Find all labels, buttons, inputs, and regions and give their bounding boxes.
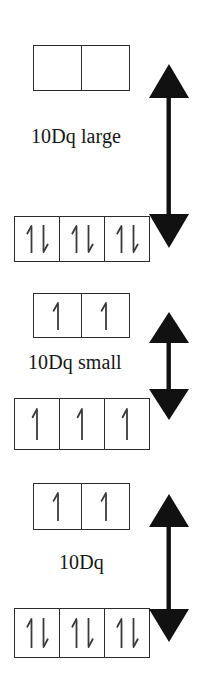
double-headed-arrow-icon xyxy=(147,62,191,250)
electron-group xyxy=(34,46,81,90)
orbital-cell xyxy=(14,608,59,658)
orbital-cell xyxy=(81,483,130,530)
electron-spin-up-icon xyxy=(116,617,127,649)
orbital-cell xyxy=(14,398,59,450)
electron-group xyxy=(105,609,149,657)
electron-spin-up-icon xyxy=(100,301,112,331)
electron-spin-down-icon xyxy=(38,224,49,254)
electron-spin-down-icon xyxy=(83,617,94,649)
orbital-cell xyxy=(104,608,150,658)
double-headed-arrow-icon xyxy=(147,310,191,422)
double-headed-arrow-icon xyxy=(147,492,191,644)
electron-spin-up-icon xyxy=(116,224,127,254)
orbital-cell xyxy=(81,45,130,91)
orbital-row-eg-3 xyxy=(33,483,130,530)
electron-group xyxy=(34,294,81,337)
splitting-arrow-2 xyxy=(147,310,191,422)
electron-group xyxy=(15,217,59,261)
splitting-energy-label-3: 10Dq xyxy=(59,552,104,572)
orbital-cell xyxy=(59,398,104,450)
orbital-cell xyxy=(104,398,150,450)
electron-spin-up-icon xyxy=(71,224,82,254)
orbital-cell xyxy=(33,293,81,338)
electron-spin-up-icon xyxy=(52,301,64,331)
electron-group xyxy=(82,294,129,337)
electron-spin-up-icon xyxy=(26,224,37,254)
electron-group xyxy=(60,399,104,449)
splitting-energy-label-1: 10Dq large xyxy=(31,126,121,146)
electron-spin-up-icon xyxy=(31,407,43,441)
crystal-field-splitting-figure: 10Dq large xyxy=(0,0,218,684)
orbital-row-t2g-2 xyxy=(14,398,150,450)
orbital-row-t2g-3 xyxy=(14,608,150,658)
electron-spin-down-icon xyxy=(128,617,139,649)
orbital-row-eg-2 xyxy=(33,293,130,338)
electron-group xyxy=(105,399,149,449)
electron-group xyxy=(82,484,129,529)
electron-group xyxy=(15,399,59,449)
electron-spin-up-icon xyxy=(26,617,37,649)
orbital-cell xyxy=(59,216,104,262)
electron-group xyxy=(34,484,81,529)
orbital-row-eg-1 xyxy=(33,45,130,91)
splitting-arrow-1 xyxy=(147,62,191,250)
electron-spin-up-icon xyxy=(100,491,112,522)
orbital-cell xyxy=(33,483,81,530)
electron-spin-down-icon xyxy=(38,617,49,649)
electron-spin-up-icon xyxy=(71,617,82,649)
orbital-row-t2g-1 xyxy=(14,216,150,262)
electron-spin-up-icon xyxy=(76,407,88,441)
electron-spin-up-icon xyxy=(121,407,133,441)
splitting-arrow-3 xyxy=(147,492,191,644)
orbital-cell xyxy=(104,216,150,262)
orbital-cell xyxy=(81,293,130,338)
electron-group xyxy=(15,609,59,657)
orbital-cell xyxy=(59,608,104,658)
electron-spin-down-icon xyxy=(128,224,139,254)
electron-spin-down-icon xyxy=(83,224,94,254)
electron-spin-up-icon xyxy=(52,491,64,522)
orbital-cell xyxy=(14,216,59,262)
splitting-energy-label-2: 10Dq small xyxy=(28,352,122,372)
electron-group xyxy=(60,217,104,261)
electron-group xyxy=(105,217,149,261)
orbital-cell xyxy=(33,45,81,91)
electron-group xyxy=(60,609,104,657)
electron-group xyxy=(82,46,129,90)
